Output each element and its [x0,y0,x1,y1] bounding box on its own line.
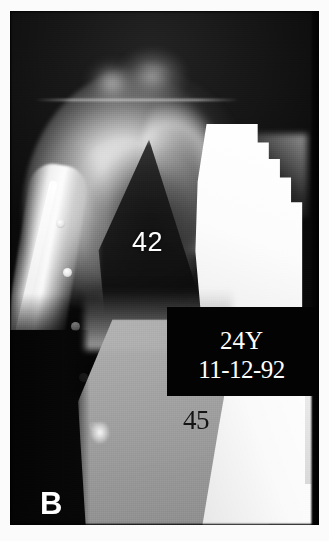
xray-superior-opacity-2 [78,57,146,108]
patient-age-label: 24Y [220,328,263,353]
xray-central-lucency [72,129,214,304]
xray-implant-rail [10,180,58,462]
xray-implant-screw [71,322,80,331]
xray-superior-opacity [109,42,196,104]
xray-implant-screw [63,268,72,277]
xray-bone-shaft-band [10,161,90,434]
xray-implant-screw [89,422,98,431]
xray-mid-dark-band [10,294,183,397]
patient-info-box: 24Y 11-12-92 [167,307,316,396]
measurement-label-upper: 42 [132,229,163,256]
study-date-label: 11-12-92 [198,357,285,382]
xray-right-edge-strip [310,11,319,525]
xray-implant-screw [79,373,88,382]
film-grain-overlay [10,11,319,525]
xray-implant-distal-tip [90,422,112,448]
xray-implant-screw [56,219,65,228]
panel-letter-label: B [40,488,63,519]
figure-root: 42 24Y 11-12-92 45 B [0,0,329,541]
radiograph-image: 42 24Y 11-12-92 45 B [10,11,319,525]
xray-right-slab-smear [232,134,306,216]
xray-background-field [10,11,319,525]
xray-collimation-edge [35,99,239,101]
xray-left-soft-tissue [25,145,105,320]
measurement-label-lower: 45 [183,407,209,434]
xray-right-bright-slab [195,124,306,330]
xray-bone-dome [22,68,263,315]
